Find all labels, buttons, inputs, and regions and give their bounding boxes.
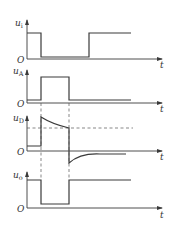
plot-uA: t uA O t (13, 60, 164, 114)
label-uo: uo (13, 170, 23, 182)
label-uD: uD (13, 113, 24, 125)
origin-uA: O (17, 99, 25, 109)
t-label-ui: t (160, 60, 164, 70)
plot-uo: uo O t (13, 170, 164, 220)
plot-uD: uD O t (13, 113, 164, 163)
label-ui: ui (15, 18, 23, 30)
t-label-uD: t (160, 152, 164, 162)
origin-uo: O (17, 204, 25, 214)
origin-uD: O (17, 147, 25, 157)
t-label-uA: t (160, 104, 164, 114)
waveform-uD (27, 117, 126, 163)
waveform-ui (27, 33, 131, 57)
label-uA: uA (13, 66, 24, 78)
t-label-uo: t (160, 210, 164, 220)
waveform-uA (27, 77, 131, 100)
plot-ui: ui O (15, 18, 162, 65)
origin-ui: O (17, 55, 25, 65)
waveform-diagram: ui O t uA O t uD O t uo O t (0, 0, 175, 230)
waveform-uo (27, 180, 131, 204)
